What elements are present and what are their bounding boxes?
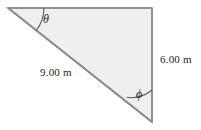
side-length-label-vertical: 6.00 m (160, 54, 192, 65)
geometry-figure: θ ϕ 6.00 m 9.00 m (0, 0, 201, 130)
triangle-diagram (0, 0, 201, 130)
side-length-label-hypotenuse: 9.00 m (40, 67, 72, 78)
angle-label-phi: ϕ (136, 88, 142, 100)
angle-label-theta: θ (43, 13, 49, 25)
